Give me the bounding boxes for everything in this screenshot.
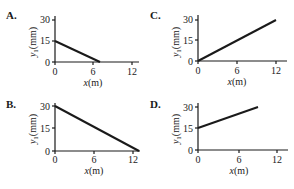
- x-tick-6-d: 6: [237, 154, 242, 165]
- y-tick-30-a: 30: [40, 14, 50, 25]
- panel-label-d: D.: [150, 98, 161, 110]
- x-axis-label-d: x(m): [229, 165, 249, 177]
- answer-choices-figure: A. y1(mm) 30 15 0 0 6 12 x(m) C. y1(mm) …: [0, 0, 294, 189]
- y-tick-0-c: 0: [188, 56, 193, 67]
- x-tick-0-a: 0: [53, 66, 58, 77]
- data-line-c: [198, 20, 276, 61]
- x-tick-6-a: 6: [91, 66, 96, 77]
- panel-b: B. y1(mm) 30 15 0 0 6 12 x(m): [6, 98, 140, 177]
- x-tick-12-b: 12: [128, 154, 138, 165]
- y-axis-label-c: y1(mm): [170, 27, 183, 58]
- data-line-d: [198, 107, 258, 128]
- x-tick-12-c: 12: [271, 65, 281, 76]
- panel-d: D. y1(mm) 30 15 0 0 6 12 x(m): [150, 98, 288, 177]
- y-tick-0-d: 0: [188, 145, 193, 156]
- y-tick-30-b: 30: [40, 101, 50, 112]
- x-tick-0-b: 0: [53, 154, 58, 165]
- y-tick-15-a: 15: [40, 35, 50, 46]
- y-tick-15-c: 15: [183, 35, 193, 46]
- x-axis-label-c: x(m): [227, 76, 247, 88]
- y-tick-30-c: 30: [183, 14, 193, 25]
- x-tick-0-d: 0: [196, 154, 201, 165]
- x-axis-label-b: x(m): [84, 165, 104, 177]
- y-tick-0-b: 0: [45, 146, 50, 157]
- y-tick-15-d: 15: [183, 123, 193, 134]
- x-tick-12-a: 12: [127, 66, 137, 77]
- panel-label-a: A.: [6, 9, 17, 21]
- x-tick-12-d: 12: [272, 154, 282, 165]
- data-line-b: [55, 106, 139, 151]
- x-tick-0-c: 0: [196, 65, 201, 76]
- panel-label-c: C.: [150, 9, 161, 21]
- panel-a: A. y1(mm) 30 15 0 0 6 12 x(m): [6, 9, 139, 89]
- y-tick-15-b: 15: [40, 123, 50, 134]
- y-axis-label-b: y1(mm): [27, 114, 40, 145]
- panel-c: C. y1(mm) 30 15 0 0 6 12 x(m): [150, 9, 287, 88]
- panel-label-b: B.: [6, 98, 16, 110]
- y-axis-label-d: y1(mm): [170, 114, 183, 145]
- x-tick-6-b: 6: [92, 154, 97, 165]
- x-axis-label-a: x(m): [83, 77, 103, 89]
- y-tick-0-a: 0: [45, 57, 50, 68]
- x-tick-6-c: 6: [235, 65, 240, 76]
- data-line-a: [55, 41, 100, 62]
- y-axis-label-a: y1(mm): [27, 27, 40, 58]
- y-tick-30-d: 30: [183, 102, 193, 113]
